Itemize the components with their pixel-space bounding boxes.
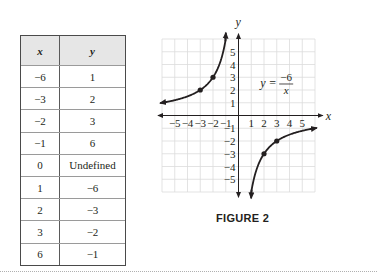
- svg-text:4: 4: [230, 59, 236, 71]
- svg-text:2: 2: [261, 117, 267, 129]
- svg-text:4: 4: [287, 117, 293, 129]
- svg-text:3: 3: [230, 71, 236, 83]
- data-point: [210, 75, 215, 80]
- axes: xy: [158, 15, 332, 197]
- svg-text:−4: −4: [182, 117, 194, 129]
- svg-text:=: =: [269, 76, 276, 90]
- svg-text:1: 1: [249, 117, 255, 129]
- svg-text:5: 5: [230, 46, 236, 58]
- hyperbola-plot: xy −5−4−3−2−11234554321−1−2−3−4−5 y=−6x: [0, 0, 377, 278]
- svg-text:−3: −3: [194, 117, 206, 129]
- y-axis-label: y: [235, 15, 242, 29]
- svg-text:−2: −2: [207, 117, 219, 129]
- svg-text:3: 3: [274, 117, 280, 129]
- svg-text:−6: −6: [280, 71, 292, 83]
- data-point: [274, 138, 279, 143]
- curve-left-branch: [162, 39, 226, 103]
- svg-text:−5: −5: [169, 117, 181, 129]
- curve-right-branch: [251, 128, 315, 193]
- svg-text:−4: −4: [224, 161, 236, 173]
- data-point: [261, 151, 266, 156]
- svg-text:x: x: [283, 84, 289, 96]
- svg-text:−1: −1: [224, 122, 236, 134]
- x-axis-label: x: [325, 109, 332, 123]
- svg-text:−2: −2: [224, 135, 236, 147]
- divider: [0, 271, 377, 272]
- svg-text:y: y: [259, 76, 266, 90]
- figure-caption: FIGURE 2: [216, 212, 269, 224]
- svg-text:−3: −3: [224, 148, 236, 160]
- svg-text:5: 5: [300, 117, 306, 129]
- svg-text:2: 2: [230, 84, 236, 96]
- svg-text:1: 1: [230, 97, 236, 109]
- svg-text:−5: −5: [224, 173, 236, 185]
- data-point: [198, 87, 203, 92]
- graph: xy −5−4−3−2−11234554321−1−2−3−4−5 y=−6x: [0, 0, 377, 278]
